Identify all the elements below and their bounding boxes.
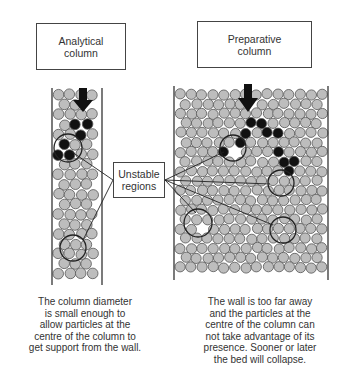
unstable-regions-label: Unstable regions xyxy=(113,162,165,198)
preparative-label-line-1: Preparative xyxy=(228,33,282,45)
unstable-label-line-1: Unstable xyxy=(118,168,159,180)
analytical-label-line-1: Analytical xyxy=(59,35,104,47)
unstable-label-line-2: regions xyxy=(118,180,159,192)
analytical-label-line-2: column xyxy=(59,47,104,59)
analytical-column-caption: The column diameter is small enough to a… xyxy=(10,296,160,354)
analytical-column-label: Analytical column xyxy=(36,23,126,70)
analytical-column-packing xyxy=(53,89,99,279)
preparative-label-line-2: column xyxy=(228,45,282,57)
preparative-column-label: Preparative column xyxy=(197,21,312,68)
preparative-column-caption: The wall is too far away and the particl… xyxy=(180,296,340,365)
